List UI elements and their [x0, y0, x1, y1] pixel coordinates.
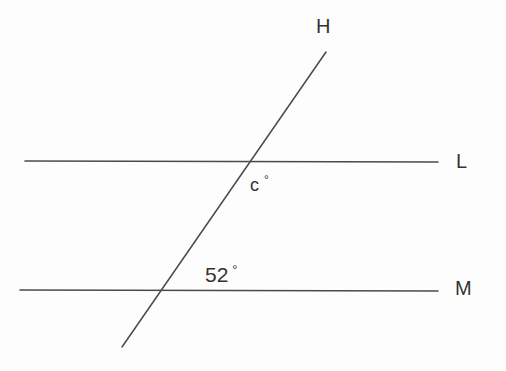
- angle-label-52: 52°: [205, 263, 238, 285]
- degree-symbol-c: °: [264, 173, 269, 187]
- line-label-H: H: [316, 16, 331, 36]
- line-L-stroke: [25, 161, 438, 162]
- angle-label-c: c°: [250, 174, 269, 194]
- degree-symbol-52: °: [232, 262, 237, 277]
- angle-value-52: 52: [205, 263, 228, 286]
- line-H-transversal-stroke: [122, 52, 326, 347]
- geometry-figure: H L M c° 52°: [0, 0, 506, 371]
- line-label-M: M: [455, 278, 472, 298]
- angle-value-c: c: [250, 175, 259, 195]
- line-M-stroke: [20, 290, 438, 291]
- line-label-L: L: [456, 151, 468, 171]
